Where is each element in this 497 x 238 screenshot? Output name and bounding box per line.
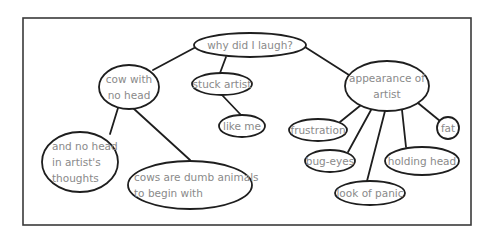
node-label: appearance of: [349, 72, 425, 84]
node-label: frustration: [290, 124, 345, 136]
edge-appearance-bugeyes: [348, 110, 371, 152]
node-dumb: cows are dumb animalsto begin with: [128, 161, 259, 209]
node-label: like me: [223, 120, 261, 132]
edge-appearance-panic: [367, 111, 385, 181]
node-ellipse: [345, 61, 429, 111]
node-label: stuck artist: [193, 78, 252, 90]
edge-cow-thoughts: [110, 108, 118, 134]
node-label: cow with: [106, 73, 152, 85]
node-ellipse: [128, 161, 252, 209]
node-label: no head: [108, 89, 151, 101]
node-label: fat: [441, 122, 455, 134]
node-label: artist: [373, 88, 400, 100]
edge-appearance-frustration: [340, 105, 361, 122]
node-panic: look of panic: [335, 181, 405, 205]
edge-root-appearance: [305, 47, 349, 75]
node-holding: holding head: [385, 147, 459, 175]
edge-appearance-holding: [402, 110, 406, 147]
node-root: why did I laugh?: [194, 33, 306, 57]
edge-root-cow: [153, 47, 196, 70]
node-label: look of panic: [336, 187, 403, 199]
node-label: in artist's: [52, 156, 101, 168]
node-ellipse: [99, 65, 159, 109]
node-frustration: frustration: [289, 119, 347, 141]
mind-map-diagram: why did I laugh?cow withno headstuck art…: [0, 0, 497, 238]
node-label: cows are dumb animals: [134, 171, 259, 183]
node-label: why did I laugh?: [207, 39, 293, 51]
edge-stuck-likeme: [222, 95, 241, 115]
node-label: bug-eyes: [306, 155, 354, 167]
edge-appearance-fat: [418, 103, 440, 121]
edge-cow-dumb: [133, 108, 190, 160]
node-cow: cow withno head: [99, 65, 159, 109]
node-label: thoughts: [52, 172, 99, 184]
node-label: and no head: [52, 140, 118, 152]
node-label: holding head: [388, 155, 456, 167]
edge-root-stuck: [220, 57, 226, 73]
node-thoughts: and no headin artist'sthoughts: [42, 132, 118, 192]
nodes-layer: why did I laugh?cow withno headstuck art…: [42, 33, 459, 209]
node-fat: fat: [437, 117, 459, 139]
node-likeme: like me: [219, 115, 265, 137]
node-bugeyes: bug-eyes: [305, 150, 355, 172]
node-label: to begin with: [134, 187, 203, 199]
node-appearance: appearance ofartist: [345, 61, 429, 111]
node-stuck: stuck artist: [192, 73, 252, 95]
